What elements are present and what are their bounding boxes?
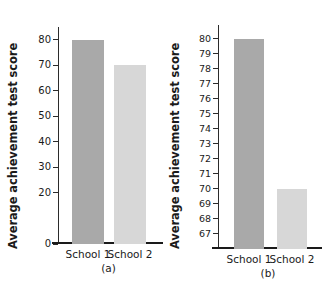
y-axis-tick-label: 69 xyxy=(199,199,211,209)
bar-1 xyxy=(72,40,104,244)
y-axis-tick-label: 70 xyxy=(38,60,51,70)
chart-panel-b: Average achievement test score 676869707… xyxy=(163,0,325,292)
bar-2 xyxy=(114,65,146,244)
panel-caption-a: (a) xyxy=(58,262,159,274)
y-axis-tick-label: 80 xyxy=(199,34,211,44)
plot-area-b: 6768697071727374757677787980 School 1Sch… xyxy=(218,25,318,249)
y-axis-tick-label: 50 xyxy=(38,111,51,121)
y-axis-tick-label: 79 xyxy=(199,49,211,59)
y-axis-tick-label: 74 xyxy=(199,124,211,134)
x-axis-tick-label: School 2 xyxy=(270,253,315,265)
y-axis-tick-label: 70 xyxy=(199,184,211,194)
y-axis-tick-label: 67 xyxy=(199,229,211,239)
y-axis-tick-label: 76 xyxy=(199,94,211,104)
y-axis-tick-label: 40 xyxy=(38,137,51,147)
x-axis-tick-label: School 2 xyxy=(108,248,153,260)
y-axis-tick-label: 73 xyxy=(199,139,211,149)
y-axis-tick-label: 75 xyxy=(199,109,211,119)
bar-group-a xyxy=(58,27,159,244)
y-axis-title: Average achievement test score xyxy=(2,0,24,292)
y-axis-tick-label: 30 xyxy=(38,162,51,172)
y-axis-tick-label: 72 xyxy=(199,154,211,164)
x-axis-tick-label: School 1 xyxy=(66,248,111,260)
chart-panel-a: Average achievement test score 020304050… xyxy=(0,0,163,292)
y-axis-tick-label: 78 xyxy=(199,64,211,74)
y-axis-tick-label: 77 xyxy=(199,79,211,89)
x-axis-tick-label: School 1 xyxy=(227,253,272,265)
bar-2 xyxy=(277,189,307,249)
x-axis-tick-labels-b: School 1School 2 xyxy=(218,249,318,267)
y-axis-tick-label: 71 xyxy=(199,169,211,179)
y-axis-tick-label: 0 xyxy=(45,239,51,249)
bar-1 xyxy=(234,39,264,249)
y-axis-title: Average achievement test score xyxy=(164,0,186,292)
figure: Average achievement test score 020304050… xyxy=(0,0,325,292)
y-axis-tick-label: 20 xyxy=(38,188,51,198)
plot-area-a: 020304050607080 School 1School 2 (a) xyxy=(58,27,159,244)
bar-group-b xyxy=(218,25,318,249)
y-axis-tick-label: 60 xyxy=(38,86,51,96)
panel-caption-b: (b) xyxy=(218,267,318,279)
y-axis-tick-label: 80 xyxy=(38,35,51,45)
x-axis-tick-labels-a: School 1School 2 xyxy=(58,244,159,262)
y-axis-tick-label: 68 xyxy=(199,214,211,224)
